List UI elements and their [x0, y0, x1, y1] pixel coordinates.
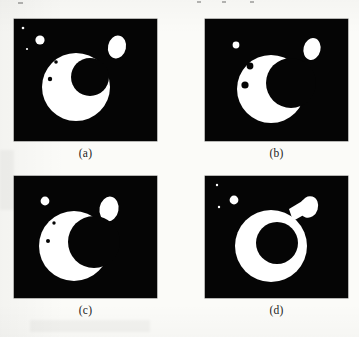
speck-black-1 [247, 63, 254, 70]
panel-b-image [205, 19, 348, 141]
satellite-disc [230, 196, 239, 205]
speck-white-tiny-1 [22, 27, 25, 30]
panel-c-image [14, 176, 157, 298]
speck-black-1 [54, 60, 58, 64]
speck-black-2 [241, 81, 248, 88]
speck-black-2 [46, 239, 50, 243]
panel-b-caption: (b) [205, 147, 348, 159]
panel-a-image [14, 19, 157, 141]
panel-d-svg [205, 176, 348, 298]
speck-white-tiny-1 [216, 184, 218, 186]
panel-d-image [205, 176, 348, 298]
satellite-disc [35, 35, 44, 44]
panel-a-caption: (a) [14, 147, 157, 159]
panel-d-caption: (d) [205, 304, 348, 316]
panel-c-caption: (c) [14, 304, 157, 316]
speck-white-tiny-2 [218, 206, 220, 208]
speck-black-2 [48, 77, 52, 81]
speck-white-tiny-2 [26, 48, 28, 50]
satellite-disc [41, 197, 50, 206]
main-hole [256, 222, 298, 264]
main-hole [71, 58, 109, 96]
satellite-disc [233, 42, 240, 49]
main-hole [266, 58, 316, 108]
main-hole [68, 216, 120, 268]
figure-panel-grid: (a) (b) (c) (d) [0, 0, 359, 337]
panel-a-svg [14, 19, 157, 141]
speck-black-1 [52, 221, 55, 224]
panel-b-svg [205, 19, 348, 141]
panel-c-svg [14, 176, 157, 298]
